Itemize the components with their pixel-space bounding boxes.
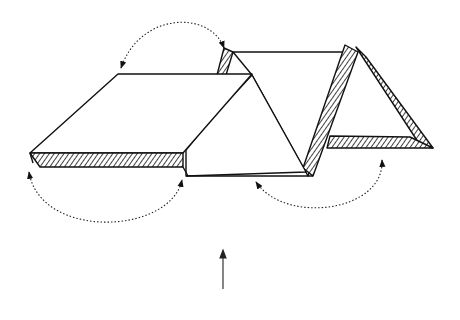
left-hatched-flap bbox=[30, 153, 183, 167]
view-arrow-head-icon bbox=[220, 250, 226, 258]
back-hatched-flap bbox=[217, 48, 233, 75]
top-fold-arrow bbox=[121, 22, 224, 68]
folding-diagram bbox=[0, 0, 460, 320]
right-slope-strip bbox=[356, 47, 433, 148]
diagram-canvas bbox=[0, 0, 460, 320]
left-fold-arrow bbox=[29, 172, 182, 222]
